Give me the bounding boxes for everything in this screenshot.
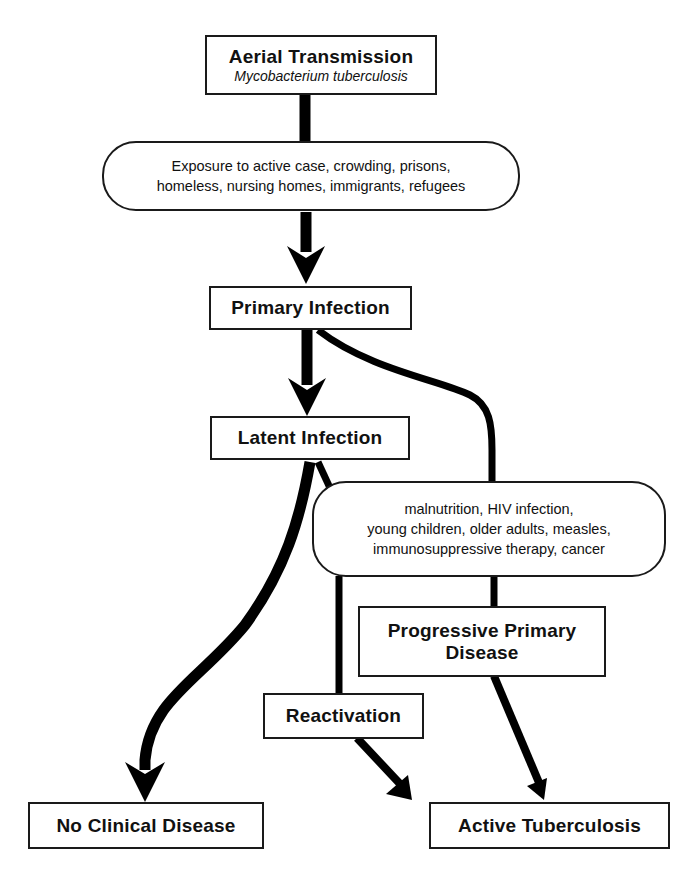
node-progressive-line-1: Progressive Primary xyxy=(388,620,577,642)
node-reactivation: Reactivation xyxy=(263,693,424,739)
risk-line-1: malnutrition, HIV infection, xyxy=(404,499,573,519)
node-aerial-transmission: Aerial Transmission Mycobacterium tuberc… xyxy=(205,35,437,95)
node-exposure-factors: Exposure to active case, crowding, priso… xyxy=(102,141,520,211)
node-progressive-line-2: Disease xyxy=(445,642,518,664)
node-active-tb-title: Active Tuberculosis xyxy=(458,815,641,837)
exposure-line-2: homeless, nursing homes, immigrants, ref… xyxy=(157,176,466,196)
node-progressive-primary-disease: Progressive Primary Disease xyxy=(358,606,606,677)
node-primary-infection: Primary Infection xyxy=(209,286,412,330)
arrow-primary-to-latent xyxy=(288,330,326,416)
node-aerial-subtitle: Mycobacterium tuberculosis xyxy=(234,68,408,84)
risk-line-2: young children, older adults, measles, xyxy=(367,519,610,539)
node-no-clinical-disease: No Clinical Disease xyxy=(28,802,264,849)
node-risk-factors: malnutrition, HIV infection, young child… xyxy=(312,481,666,577)
arrow-latent-to-no-disease xyxy=(125,462,310,802)
node-latent-title: Latent Infection xyxy=(238,427,383,449)
node-latent-infection: Latent Infection xyxy=(210,416,410,460)
edge-latent-to-risk xyxy=(318,462,330,488)
exposure-line-1: Exposure to active case, crowding, priso… xyxy=(172,156,451,176)
arrow-exposure-to-primary xyxy=(287,212,325,284)
node-aerial-title: Aerial Transmission xyxy=(229,46,413,68)
node-primary-title: Primary Infection xyxy=(231,297,390,319)
node-reactivation-title: Reactivation xyxy=(286,705,401,727)
node-active-tuberculosis: Active Tuberculosis xyxy=(429,802,670,849)
node-no-disease-title: No Clinical Disease xyxy=(56,815,235,837)
arrow-reactivation-to-active xyxy=(357,738,412,800)
arrow-progressive-to-active xyxy=(494,676,547,800)
risk-line-3: immunosuppressive therapy, cancer xyxy=(373,539,605,559)
